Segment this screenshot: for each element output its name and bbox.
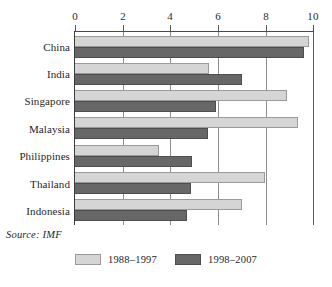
legend-label-1988-1997: 1988–1997	[108, 254, 157, 265]
bar-india-1988-1997	[75, 63, 209, 74]
bar-india-1998-2007	[75, 74, 242, 85]
bar-philippines-1998-2007	[75, 156, 192, 167]
bar-chart: 0 2 4 6 8 10 China India Singapore Malay…	[0, 0, 332, 287]
bar-group-india	[75, 60, 314, 87]
legend-swatch-icon-dark	[175, 254, 201, 265]
bar-indonesia-1988-1997	[75, 199, 242, 210]
bar-malaysia-1998-2007	[75, 128, 208, 139]
category-label-china: China	[0, 41, 70, 53]
x-tick-label-10: 10	[307, 10, 318, 22]
legend-label-1998-2007: 1998–2007	[208, 254, 257, 265]
bar-group-singapore	[75, 88, 314, 115]
legend: 1988–1997 1998–2007	[0, 254, 332, 265]
legend-entry-1988-1997[interactable]: 1988–1997	[75, 254, 157, 265]
category-label-malaysia: Malaysia	[0, 123, 70, 135]
bar-group-china	[75, 33, 314, 60]
bar-philippines-1988-1997	[75, 145, 159, 156]
category-label-thailand: Thailand	[0, 178, 70, 190]
bar-thailand-1998-2007	[75, 183, 191, 194]
x-axis-line	[75, 31, 314, 32]
bar-singapore-1988-1997	[75, 90, 287, 101]
bar-china-1998-2007	[75, 47, 304, 58]
bar-thailand-1988-1997	[75, 172, 265, 183]
category-label-indonesia: Indonesia	[0, 205, 70, 217]
bar-china-1988-1997	[75, 36, 309, 47]
bar-indonesia-1998-2007	[75, 210, 187, 221]
category-label-singapore: Singapore	[0, 95, 70, 107]
x-tick-label-4: 4	[167, 10, 173, 22]
category-label-philippines: Philippines	[0, 150, 70, 162]
plot-area	[75, 33, 314, 224]
source-note: Source: IMF	[6, 229, 62, 240]
x-tick-label-6: 6	[215, 10, 221, 22]
bar-group-indonesia	[75, 197, 314, 224]
x-tick-label-2: 2	[120, 10, 126, 22]
bar-singapore-1998-2007	[75, 101, 216, 112]
bar-group-malaysia	[75, 115, 314, 142]
bar-group-philippines	[75, 142, 314, 169]
bar-malaysia-1988-1997	[75, 117, 298, 128]
category-label-india: India	[0, 68, 70, 80]
x-tick-label-8: 8	[263, 10, 269, 22]
legend-swatch-icon-light	[75, 254, 101, 265]
x-tick-label-0: 0	[72, 10, 78, 22]
bar-group-thailand	[75, 169, 314, 196]
legend-entry-1998-2007[interactable]: 1998–2007	[175, 254, 257, 265]
